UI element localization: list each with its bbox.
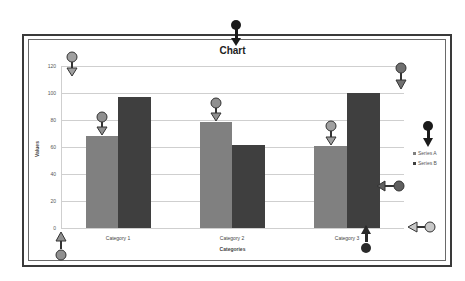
y-max-marker-icon: [67, 52, 77, 76]
series-a-cat2-marker-icon: [211, 98, 221, 121]
legend-marker-icon: [423, 121, 433, 147]
annotation-markers: [0, 0, 465, 281]
title-marker-icon: [231, 20, 241, 46]
series-a-cat1-marker-icon: [97, 112, 107, 135]
x-axis-end-marker-icon: [408, 222, 435, 232]
series-b-cat3-side-marker-icon: [377, 181, 404, 191]
series-b-cat3-bottom-marker-icon: [361, 225, 371, 253]
origin-marker-icon: [56, 232, 66, 260]
series-a-cat3-marker-icon: [326, 121, 336, 145]
series-b-cat3-top-marker-icon: [396, 63, 406, 89]
